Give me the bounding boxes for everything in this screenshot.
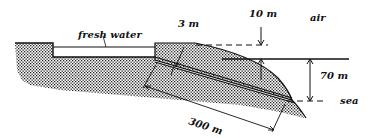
cross-section-diagram: fresh water 3 m 10 m air 70 m sea 300 m xyxy=(0,0,371,138)
label-thickness-3m: 3 m xyxy=(178,18,199,29)
label-fresh-water: fresh water xyxy=(77,29,142,40)
label-depth-70m: 70 m xyxy=(320,70,348,81)
label-length-300m: 300 m xyxy=(187,115,224,136)
label-height-10m: 10 m xyxy=(249,8,277,19)
label-sea: sea xyxy=(340,95,358,106)
label-air: air xyxy=(310,12,326,23)
